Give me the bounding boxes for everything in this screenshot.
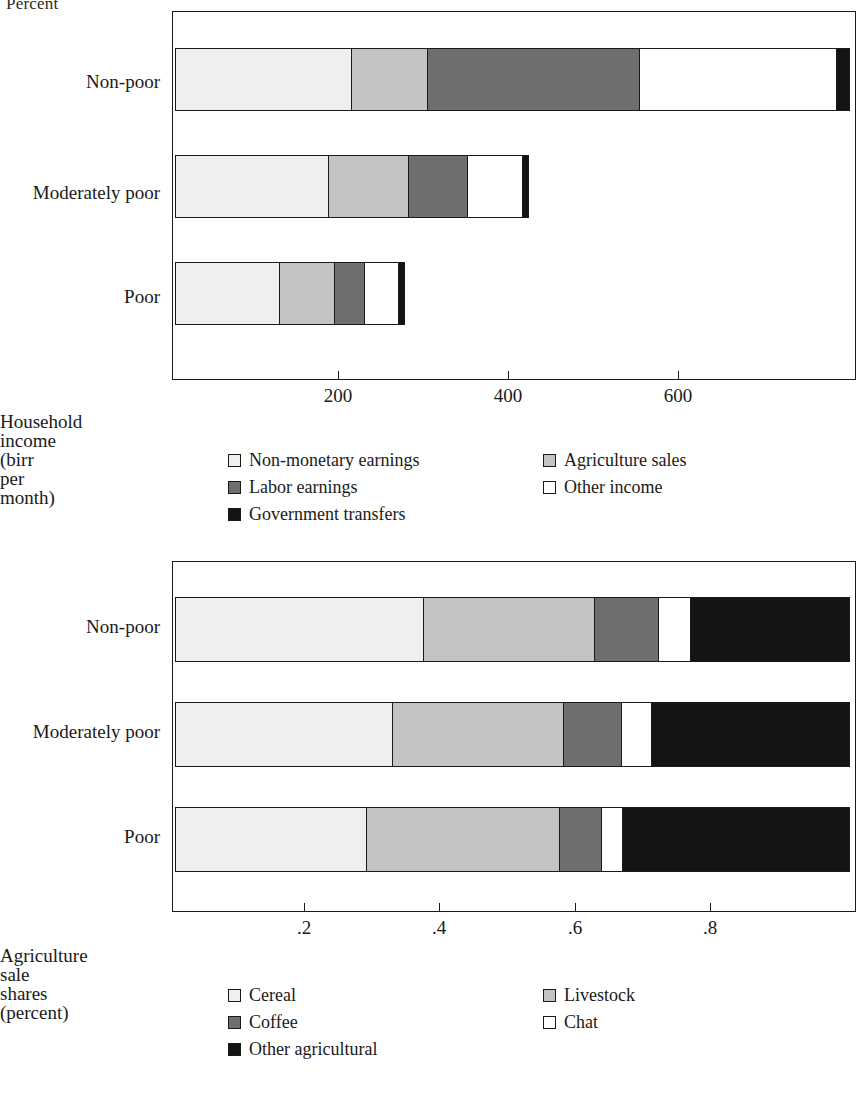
bar-segment-labor-earnings [408,155,469,218]
category-label-non-poor-1: Non-poor [0,72,160,91]
legend-item-chat: Chat [543,1013,598,1031]
bar-row-non-poor-1 [175,48,850,111]
bar-segment-livestock [392,702,565,767]
legend-label-other-income: Other income [564,478,662,496]
bar-segment-non-monetary-earnings [175,262,280,325]
xtick-label-200-1: 200 [298,386,378,405]
legend-swatch-government-transfers [228,508,241,521]
legend-item-livestock: Livestock [543,986,635,1004]
bar-segment-chat [621,702,652,767]
bar-row-poor-1 [175,262,405,325]
bar-segment-government-transfers [522,155,529,218]
legend-swatch-non-monetary-earnings [228,454,241,467]
legend-swatch-cereal [228,989,241,1002]
bar-row-poor-2 [175,807,850,872]
legend-item-coffee: Coffee [228,1013,298,1031]
xtick-0.6-2 [575,903,576,912]
bar-segment-other-income [639,48,837,111]
xtick-200-1 [338,371,339,380]
legend-item-non-monetary-earnings: Non-monetary earnings [228,451,419,469]
bar-segment-cereal [175,702,393,767]
bar-segment-coffee [594,597,659,662]
category-label-poor-1: Poor [0,287,160,306]
xtick-label-600-1: 600 [638,386,718,405]
xtick-label-0.2-2: .2 [264,918,344,937]
legend-item-agriculture-sales: Agriculture sales [543,451,686,469]
legend-label-labor-earnings: Labor earnings [249,478,357,496]
legend-swatch-chat [543,1016,556,1029]
legend-label-agriculture-sales: Agriculture sales [564,451,686,469]
xtick-label-400-1: 400 [468,386,548,405]
legend-label-coffee: Coffee [249,1013,298,1031]
bar-segment-other-agricultural [690,597,850,662]
bar-segment-other-income [467,155,523,218]
bar-segment-coffee [559,807,602,872]
legend-swatch-labor-earnings [228,481,241,494]
category-label-poor-2: Poor [0,827,160,846]
xtick-0.8-2 [710,903,711,912]
bar-segment-government-transfers [398,262,405,325]
xtick-0.4-2 [439,903,440,912]
legend-item-other-income: Other income [543,478,662,496]
legend-swatch-livestock [543,989,556,1002]
category-label-non-poor-2: Non-poor [0,617,160,636]
bar-segment-other-income [364,262,400,325]
bar-segment-non-monetary-earnings [175,155,329,218]
legend-label-livestock: Livestock [564,986,635,1004]
legend-label-chat: Chat [564,1013,598,1031]
bar-segment-chat [658,597,691,662]
bar-segment-coffee [563,702,622,767]
bar-segment-government-transfers [836,48,851,111]
legend-item-other-agricultural: Other agricultural [228,1040,377,1058]
bar-segment-agriculture-sales [328,155,410,218]
xtick-600-1 [678,371,679,380]
bar-segment-labor-earnings [334,262,365,325]
bar-segment-agriculture-sales [351,48,428,111]
legend-label-cereal: Cereal [249,986,296,1004]
bar-segment-agriculture-sales [279,262,336,325]
legend-item-labor-earnings: Labor earnings [228,478,357,496]
bar-segment-other-agricultural [622,807,851,872]
category-label-moderately-poor-2: Moderately poor [0,722,160,741]
xtick-label-0.8-2: .8 [670,918,750,937]
legend-swatch-other-income [543,481,556,494]
xtick-label-0.6-2: .6 [535,918,615,937]
legend-swatch-other-agricultural [228,1043,241,1056]
legend-item-cereal: Cereal [228,986,296,1004]
bar-segment-livestock [423,597,596,662]
category-label-moderately-poor-1: Moderately poor [0,183,160,202]
bar-segment-cereal [175,597,424,662]
bar-row-non-poor-2 [175,597,850,662]
bar-segment-other-agricultural [651,702,851,767]
legend-swatch-coffee [228,1016,241,1029]
legend-label-other-agricultural: Other agricultural [249,1040,377,1058]
bar-segment-labor-earnings [427,48,640,111]
bar-segment-livestock [366,807,560,872]
legend-swatch-agriculture-sales [543,454,556,467]
xtick-label-0.4-2: .4 [399,918,479,937]
bar-segment-cereal [175,807,368,872]
xtick-400-1 [508,371,509,380]
legend-item-government-transfers: Government transfers [228,505,405,523]
xtick-0.2-2 [304,903,305,912]
page-top-caption: Percent [6,0,58,14]
legend-label-non-monetary-earnings: Non-monetary earnings [249,451,419,469]
bar-row-moderately-poor-1 [175,155,529,218]
legend-label-government-transfers: Government transfers [249,505,405,523]
bar-row-moderately-poor-2 [175,702,850,767]
bar-segment-non-monetary-earnings [175,48,353,111]
bar-segment-chat [601,807,623,872]
